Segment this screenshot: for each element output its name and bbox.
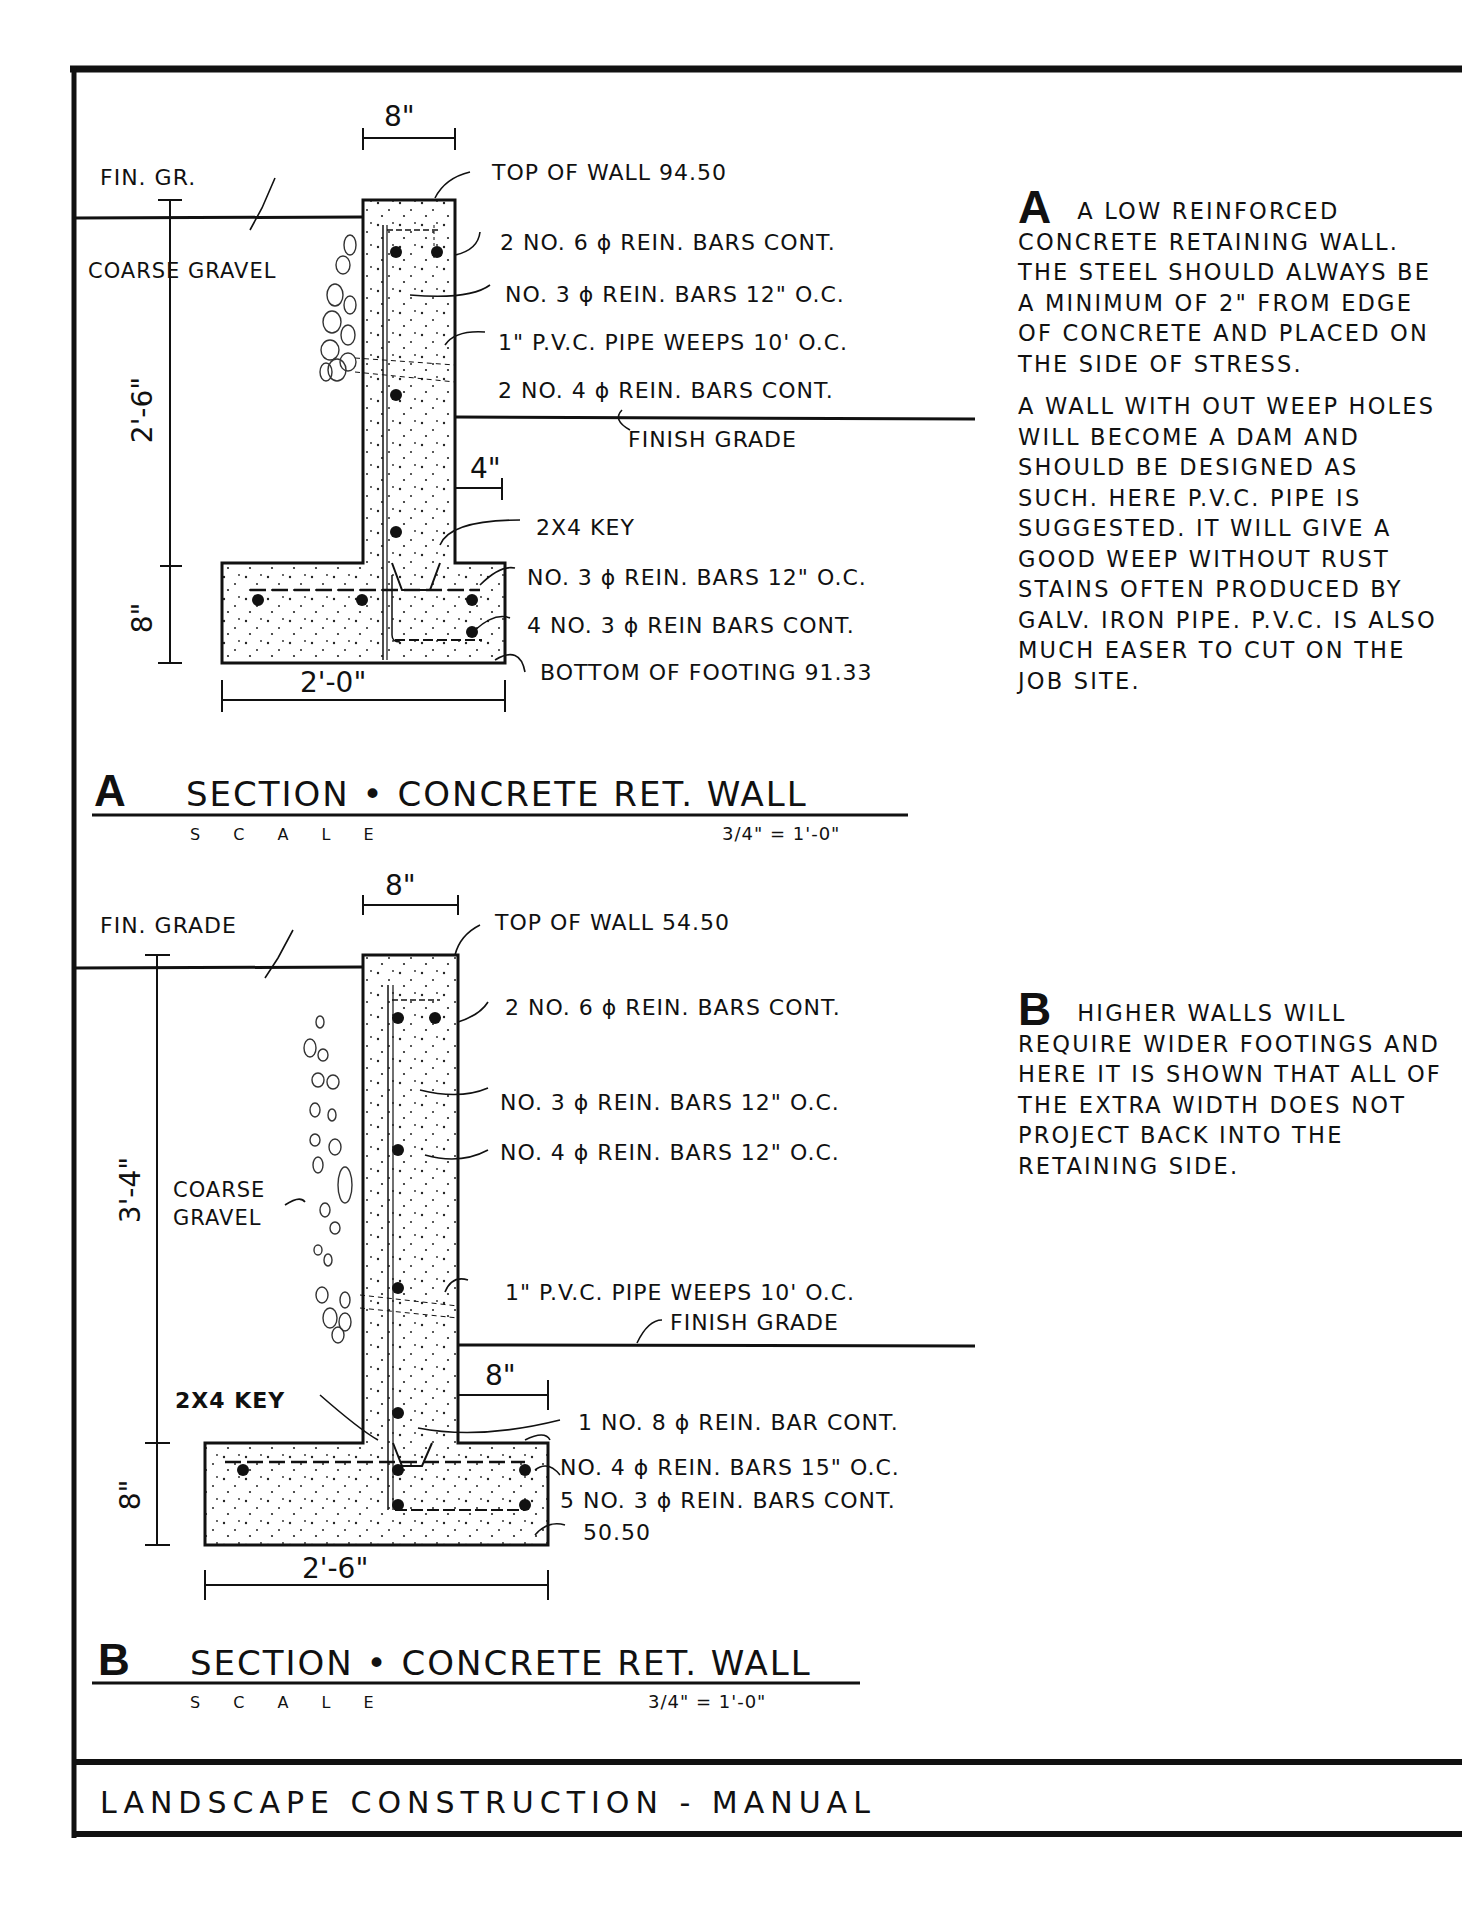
section-b-title-block: B SECTION • CONCRETE RET. WALL S C A L E… <box>92 1635 860 1712</box>
note-a-text-1: A low reinforced concrete retaining wall… <box>1018 198 1431 377</box>
label-key-b: 2X4 KEY <box>175 1388 285 1413</box>
section-a-drawing: 8" 4" 2'-6" 8" 2'-0" FIN. GR. COARSE GRA… <box>76 100 975 844</box>
label-bottom-of-footing-b: 50.50 <box>583 1520 651 1545</box>
section-a-scale-value: 3/4" = 1'-0" <box>722 823 840 844</box>
label-bars-vertical4-b: NO. 4 ϕ REIN. BARS 12" O.C. <box>500 1140 840 1165</box>
label-finish-grade-b: FINISH GRADE <box>670 1310 839 1335</box>
label-coarse-b: COARSE <box>173 1178 265 1202</box>
section-a-letter: A <box>94 766 126 815</box>
dim-footing-width-b: 2'-6" <box>302 1552 368 1585</box>
label-footing-bars-oc-a: NO. 3 ϕ REIN. BARS 12" O.C. <box>527 565 867 590</box>
section-b-scale-value: 3/4" = 1'-0" <box>648 1691 766 1712</box>
label-fin-grade-b: FIN. GRADE <box>100 913 237 938</box>
label-bars-top-b: 2 NO. 6 ϕ REIN. BARS CONT. <box>505 995 841 1020</box>
label-top-of-wall-b: TOP OF WALL 54.50 <box>494 910 730 935</box>
note-a: AA low reinforced concrete retaining wal… <box>1018 192 1448 708</box>
label-bars-vertical-b: NO. 3 ϕ REIN. BARS 12" O.C. <box>500 1090 840 1115</box>
dim-wall-height-b: 3'-4" <box>114 1157 147 1223</box>
note-a-text-2: A wall with out weep holes will become a… <box>1018 393 1437 694</box>
dim-footing-width-a: 2'-0" <box>300 666 366 699</box>
footer-title: LANDSCAPE CONSTRUCTION - MANUAL <box>100 1785 876 1820</box>
section-a-scale-label: S C A L E <box>190 825 388 844</box>
dim-toe-offset-b: 8" <box>485 1359 516 1392</box>
label-bar-8-b: 1 NO. 8 ϕ REIN. BAR CONT. <box>578 1410 899 1435</box>
label-weeps-b: 1" P.V.C. PIPE WEEPS 10' O.C. <box>505 1280 855 1305</box>
label-bottom-of-footing-a: BOTTOM OF FOOTING 91.33 <box>540 660 872 685</box>
dim-toe-offset-a: 4" <box>470 452 501 485</box>
dim-footing-depth-a: 8" <box>126 603 159 634</box>
label-footing-bars-cont-a: 4 NO. 3 ϕ REIN BARS CONT. <box>527 613 855 638</box>
note-b-letter: B <box>1018 983 1051 1035</box>
note-a-paragraph-2: A wall with out weep holes will become a… <box>1018 391 1448 696</box>
note-b: BHigher walls will require wider footing… <box>1018 994 1448 1193</box>
label-finish-grade-a: FINISH GRADE <box>628 427 797 452</box>
note-a-letter: A <box>1018 181 1051 233</box>
section-b-letter: B <box>98 1635 130 1684</box>
gravel-fill <box>304 1016 352 1343</box>
label-footing-bars-oc-b: NO. 4 ϕ REIN. BARS 15" O.C. <box>560 1455 900 1480</box>
section-a-title: SECTION • CONCRETE RET. WALL <box>186 774 808 814</box>
section-a-title-block: A SECTION • CONCRETE RET. WALL S C A L E… <box>92 766 908 844</box>
note-a-paragraph-1: AA low reinforced concrete retaining wal… <box>1018 192 1448 379</box>
dim-wall-width-b: 8" <box>385 869 416 902</box>
dim-wall-height-a: 2'-6" <box>126 377 159 443</box>
label-footing-bars-cont-b: 5 NO. 3 ϕ REIN. BARS CONT. <box>560 1488 896 1513</box>
label-bars-mid-a: 2 NO. 4 ϕ REIN. BARS CONT. <box>498 378 834 403</box>
section-b-drawing: 8" 8" 3'-4" 8" 2'-6" FIN. GRADE COARSE G… <box>76 869 975 1712</box>
label-fin-grade-a: FIN. GR. <box>100 165 196 190</box>
dim-wall-width-a: 8" <box>384 100 415 133</box>
label-top-of-wall-a: TOP OF WALL 94.50 <box>491 160 727 185</box>
label-key-a: 2X4 KEY <box>536 515 635 540</box>
note-b-paragraph-1: BHigher walls will require wider footing… <box>1018 994 1448 1181</box>
label-gravel-b: GRAVEL <box>173 1206 261 1230</box>
note-b-text-1: Higher walls will require wider footings… <box>1018 1000 1442 1179</box>
gravel-fill <box>320 235 356 381</box>
label-bars-top-a: 2 NO. 6 ϕ REIN. BARS CONT. <box>500 230 836 255</box>
label-coarse-gravel-a: COARSE GRAVEL <box>88 259 276 283</box>
dim-footing-depth-b: 8" <box>114 1480 147 1511</box>
section-b-scale-label: S C A L E <box>190 1693 388 1712</box>
section-b-title: SECTION • CONCRETE RET. WALL <box>190 1643 812 1683</box>
label-bars-vertical-a: NO. 3 ϕ REIN. BARS 12" O.C. <box>505 282 845 307</box>
label-weeps-a: 1" P.V.C. PIPE WEEPS 10' O.C. <box>498 330 848 355</box>
